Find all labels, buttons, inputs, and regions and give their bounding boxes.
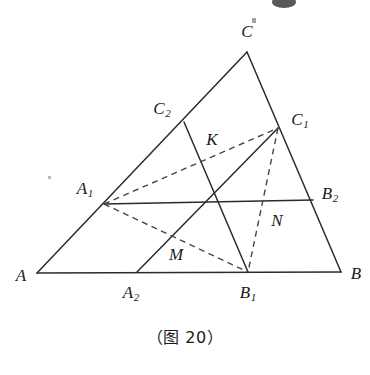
- cevian-A2-C1: [137, 128, 278, 272]
- point-label-a1: A1: [77, 180, 93, 197]
- geometry-figure: ABCA1A2B1B2C1C2KMN （图 20）: [0, 0, 370, 375]
- geometry-canvas: [0, 0, 370, 375]
- side-CB: [247, 52, 341, 272]
- point-label-c: C: [241, 23, 252, 40]
- cevian-A1-B2: [104, 200, 313, 204]
- point-label-k: K: [206, 131, 217, 148]
- segment-layer: [37, 52, 341, 273]
- chord-C1-B1: [248, 128, 278, 272]
- point-label-b2: B2: [322, 185, 338, 202]
- figure-caption: （图 20）: [0, 324, 370, 348]
- side-AB: [37, 272, 341, 273]
- side-AC: [37, 52, 247, 273]
- point-label-n: N: [271, 212, 282, 229]
- point-label-a2: A2: [123, 284, 139, 301]
- point-label-a: A: [16, 267, 26, 284]
- point-label-b: B: [351, 265, 361, 282]
- point-label-c2: C2: [153, 100, 170, 117]
- point-label-b1: B1: [240, 284, 256, 301]
- point-label-c1: C1: [291, 111, 308, 128]
- point-label-m: M: [169, 246, 183, 263]
